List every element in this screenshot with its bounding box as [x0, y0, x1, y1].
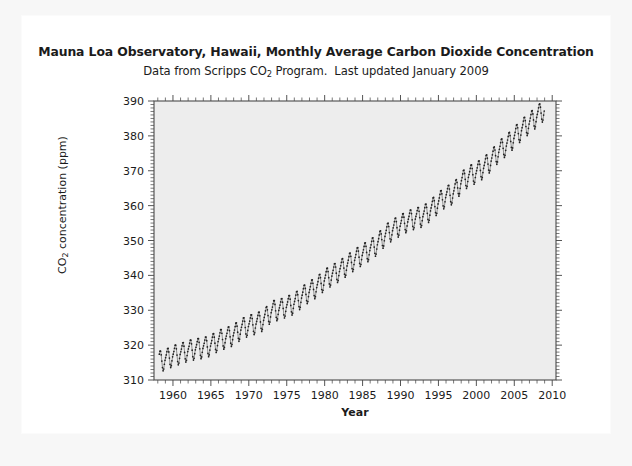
data-point: [441, 193, 443, 195]
data-point: [355, 254, 357, 256]
data-point: [487, 157, 489, 159]
data-point: [396, 227, 398, 229]
data-point: [447, 188, 449, 190]
data-point: [469, 167, 471, 169]
data-point: [507, 136, 509, 138]
data-point: [473, 180, 475, 182]
data-point: [208, 356, 210, 358]
data-point: [289, 295, 291, 297]
data-point: [393, 224, 395, 226]
data-point: [282, 301, 284, 303]
data-point: [411, 213, 413, 215]
data-point: [185, 361, 187, 363]
data-point: [348, 256, 350, 258]
data-point: [498, 152, 500, 154]
data-point: [497, 156, 499, 158]
data-point: [467, 181, 469, 183]
data-point: [301, 294, 303, 296]
data-point: [327, 271, 329, 273]
data-point: [525, 126, 527, 128]
data-point: [381, 239, 383, 241]
data-point: [532, 113, 534, 115]
data-point: [330, 284, 332, 286]
data-point: [284, 315, 286, 317]
data-point: [353, 269, 355, 271]
data-point: [205, 336, 207, 338]
data-point: [249, 317, 251, 319]
data-point: [365, 245, 367, 247]
data-point: [370, 244, 372, 246]
data-point: [383, 245, 385, 247]
data-point: [385, 230, 387, 232]
data-point: [304, 288, 306, 290]
data-point: [431, 204, 433, 206]
data-point: [422, 216, 424, 218]
data-point: [331, 275, 333, 277]
data-point: [271, 309, 273, 311]
data-point: [434, 206, 436, 208]
data-point: [214, 342, 216, 344]
data-point: [210, 345, 212, 347]
data-point: [160, 354, 162, 356]
data-point: [260, 321, 262, 323]
data-point: [376, 248, 378, 250]
x-tick-label: 1970: [235, 389, 263, 402]
data-point: [211, 340, 213, 342]
x-tick-label: 2000: [462, 389, 490, 402]
data-point: [407, 221, 409, 223]
data-point: [208, 354, 210, 356]
data-point: [415, 216, 417, 218]
data-point: [258, 311, 260, 313]
data-point: [203, 342, 205, 344]
data-point: [270, 316, 272, 318]
data-point: [366, 252, 368, 254]
data-point: [437, 203, 439, 205]
data-point: [404, 229, 406, 231]
data-point: [477, 164, 479, 166]
data-point: [515, 128, 517, 130]
data-point: [307, 301, 309, 303]
data-point: [217, 345, 219, 347]
data-point: [505, 145, 507, 147]
data-point: [281, 298, 283, 300]
data-point: [509, 135, 511, 137]
data-point: [277, 313, 279, 315]
data-point: [383, 240, 385, 242]
data-point: [275, 310, 277, 312]
data-point: [251, 314, 253, 316]
data-point: [420, 223, 422, 225]
data-point: [542, 121, 544, 123]
data-point: [471, 164, 473, 166]
data-point: [419, 217, 421, 219]
data-point: [432, 201, 434, 203]
data-point: [188, 348, 190, 350]
data-point: [224, 342, 226, 344]
data-point: [337, 282, 339, 284]
data-point: [411, 219, 413, 221]
data-point: [392, 230, 394, 232]
data-point: [439, 194, 441, 196]
data-point: [209, 349, 211, 351]
data-point: [237, 331, 239, 333]
data-point: [283, 314, 285, 316]
data-point: [459, 193, 461, 195]
data-point: [487, 163, 489, 165]
data-point: [446, 191, 448, 193]
data-point: [183, 345, 185, 347]
y-tick-label: 330: [123, 304, 144, 317]
data-point: [408, 218, 410, 220]
data-point: [450, 204, 452, 206]
data-point: [346, 265, 348, 267]
data-point: [480, 170, 482, 172]
data-point: [433, 197, 435, 199]
data-point: [361, 255, 363, 257]
data-point: [489, 170, 491, 172]
data-point: [318, 277, 320, 279]
data-point: [286, 306, 288, 308]
data-point: [261, 329, 263, 331]
data-point: [302, 291, 304, 293]
data-point: [343, 267, 345, 269]
data-point: [365, 242, 367, 244]
data-point: [292, 312, 294, 314]
data-point: [298, 300, 300, 302]
